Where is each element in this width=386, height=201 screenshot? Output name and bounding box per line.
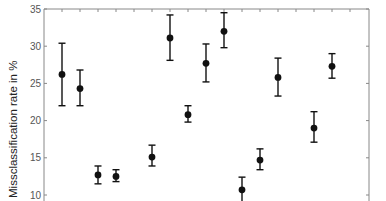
- data-marker: [77, 85, 84, 92]
- y-tick-label: 20: [30, 115, 42, 126]
- errorbar-point: [185, 106, 192, 122]
- data-marker: [311, 125, 318, 132]
- y-axis-ticks: 101520253035: [30, 4, 369, 201]
- data-marker: [149, 154, 156, 161]
- y-tick-label: 30: [30, 41, 42, 52]
- errorbar-point: [95, 166, 102, 184]
- data-marker: [95, 172, 102, 179]
- errorbar-point: [221, 13, 228, 48]
- y-tick-label: 35: [30, 4, 42, 15]
- data-marker: [167, 35, 174, 42]
- data-marker: [257, 157, 264, 164]
- y-tick-label: 15: [30, 152, 42, 163]
- errorbar-point: [239, 177, 246, 201]
- data-marker: [221, 28, 228, 35]
- errorbar-point: [311, 112, 318, 143]
- data-marker: [59, 71, 66, 78]
- data-marker: [239, 186, 246, 193]
- errorbar-point: [77, 70, 84, 106]
- errorbar-chart: 101520253035 Missclassification rate in …: [0, 0, 386, 201]
- data-marker: [203, 60, 210, 67]
- plot-frame: [44, 9, 369, 201]
- errorbar-point: [275, 58, 282, 96]
- errorbar-point: [167, 15, 174, 60]
- errorbar-point: [113, 170, 120, 182]
- errorbar-point: [257, 149, 264, 170]
- errorbar-point: [203, 44, 210, 82]
- data-marker: [113, 173, 120, 180]
- y-tick-label: 10: [30, 190, 42, 201]
- errorbar-point: [59, 43, 66, 105]
- data-marker: [329, 63, 336, 70]
- errorbar-point: [329, 54, 336, 79]
- data-marker: [275, 74, 282, 81]
- errorbar-point: [149, 145, 156, 166]
- data-points: [59, 13, 336, 201]
- y-axis-label: Missclassification rate in %: [7, 61, 19, 198]
- data-marker: [185, 111, 192, 118]
- y-tick-label: 25: [30, 78, 42, 89]
